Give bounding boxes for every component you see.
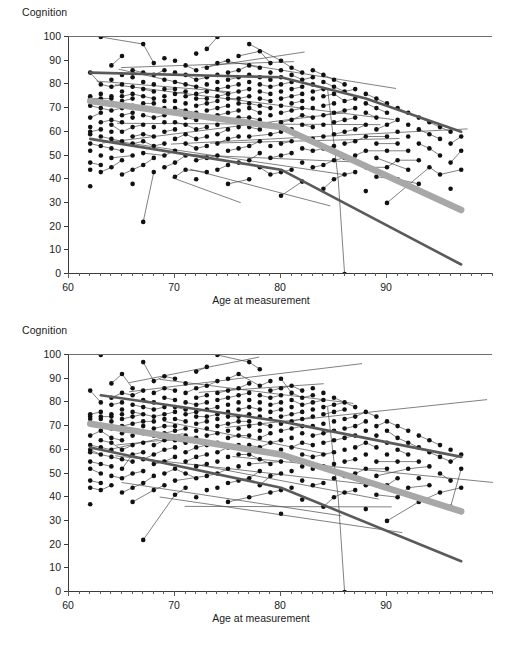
y-tick-label-90: 90 — [22, 54, 68, 66]
data-point — [385, 134, 390, 139]
data-point — [141, 220, 146, 225]
y-tick-label-60: 60 — [22, 125, 68, 137]
data-point — [215, 459, 220, 464]
data-point — [353, 87, 358, 92]
data-point — [120, 417, 125, 422]
data-point — [311, 125, 316, 130]
data-point — [173, 80, 178, 85]
data-point — [120, 438, 125, 443]
data-point — [427, 165, 432, 170]
data-point — [417, 158, 422, 163]
data-point — [120, 448, 125, 453]
data-point — [342, 448, 347, 453]
data-point — [109, 108, 114, 113]
data-point — [99, 120, 104, 125]
data-point — [226, 500, 231, 505]
x-tick-major-80 — [280, 591, 281, 596]
y-tick-label-30: 30 — [22, 196, 68, 208]
data-point — [268, 85, 273, 90]
data-point — [226, 149, 231, 154]
data-point — [215, 61, 220, 66]
data-point — [226, 85, 231, 90]
data-point — [385, 419, 390, 424]
data-point — [226, 182, 231, 187]
data-point — [258, 384, 263, 389]
data-point — [141, 87, 146, 92]
data-point — [130, 386, 135, 391]
data-point — [247, 405, 252, 410]
data-point — [448, 130, 453, 135]
data-point — [268, 106, 273, 111]
data-point — [289, 118, 294, 123]
data-point — [130, 92, 135, 97]
subject-trajectory — [228, 65, 260, 72]
data-point — [311, 68, 316, 73]
data-point — [141, 424, 146, 429]
data-point — [321, 134, 326, 139]
data-point — [342, 108, 347, 113]
data-point — [427, 132, 432, 137]
data-point — [268, 172, 273, 177]
data-point — [332, 158, 337, 163]
data-point — [120, 467, 125, 472]
data-point — [173, 175, 178, 180]
data-point — [459, 485, 464, 490]
x-tick-minor-69 — [163, 273, 164, 276]
data-point — [236, 108, 241, 113]
data-point — [279, 438, 284, 443]
x-tick-minor-97 — [460, 591, 461, 594]
data-point — [311, 165, 316, 170]
data-point — [364, 507, 369, 512]
data-point — [226, 455, 231, 460]
subject-trajectory-long — [172, 178, 241, 203]
data-point — [289, 108, 294, 113]
trend-line-lower-percentile-line — [90, 447, 461, 561]
data-point — [236, 68, 241, 73]
data-point — [300, 113, 305, 118]
data-point — [236, 96, 241, 101]
x-tick-minor-63 — [100, 591, 101, 594]
data-point — [279, 89, 284, 94]
data-point — [130, 68, 135, 73]
y-axis-panel-b: 0102030405060708090100 — [0, 318, 68, 628]
data-point — [88, 478, 93, 483]
x-tick-minor-74 — [216, 591, 217, 594]
data-point — [321, 398, 326, 403]
data-point — [141, 412, 146, 417]
data-point — [236, 407, 241, 412]
data-point — [395, 158, 400, 163]
data-point — [374, 445, 379, 450]
data-point — [395, 424, 400, 429]
data-point — [162, 412, 167, 417]
data-point — [183, 381, 188, 386]
data-point — [226, 436, 231, 441]
data-point — [332, 438, 337, 443]
data-point — [374, 474, 379, 479]
data-point — [332, 395, 337, 400]
data-point — [311, 393, 316, 398]
data-point — [215, 391, 220, 396]
data-point — [109, 63, 114, 68]
data-points — [88, 37, 464, 274]
data-point — [162, 374, 167, 379]
data-point — [311, 96, 316, 101]
data-point — [236, 419, 241, 424]
data-point — [311, 89, 316, 94]
data-point — [364, 189, 369, 194]
data-point — [406, 122, 411, 127]
data-point — [226, 77, 231, 82]
data-point — [385, 149, 390, 154]
y-tick-label-80: 80 — [22, 77, 68, 89]
data-point — [215, 485, 220, 490]
data-point — [88, 115, 93, 120]
data-point — [342, 99, 347, 104]
data-point — [109, 165, 114, 170]
data-point — [141, 139, 146, 144]
trend-line-upper-percentile-line — [90, 73, 461, 132]
x-tick-minor-73 — [206, 273, 207, 276]
data-point — [364, 111, 369, 116]
data-point — [99, 134, 104, 139]
data-point — [173, 493, 178, 498]
x-tick-minor-73 — [206, 591, 207, 594]
data-point — [152, 82, 157, 87]
